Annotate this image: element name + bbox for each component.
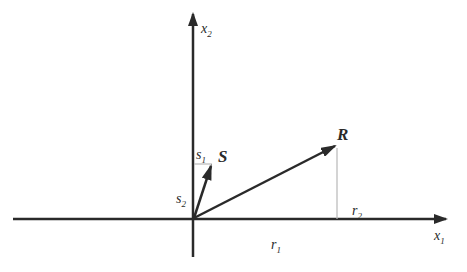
r1-component-label: r1 — [271, 237, 281, 255]
vector-diagram: x2 x1 S R s1 s2 r2 r1 — [0, 0, 467, 272]
s1-component-label: s1 — [196, 147, 206, 165]
vector-r-arrow — [194, 146, 335, 218]
vector-r-label: R — [336, 125, 348, 144]
x1-axis-label: x1 — [433, 228, 445, 246]
vector-s-label: S — [218, 147, 227, 166]
s2-component-label: s2 — [176, 191, 186, 209]
x2-axis-label: x2 — [200, 21, 212, 39]
